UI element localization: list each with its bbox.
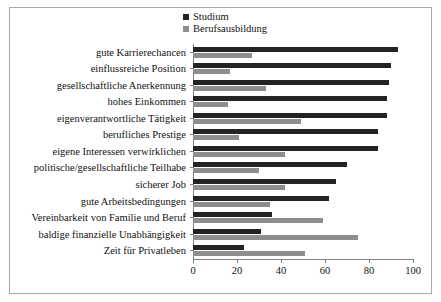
bar-berufsausbildung — [193, 168, 259, 173]
bar-studium — [193, 179, 336, 184]
bar-group — [193, 77, 413, 94]
category-label: baldige finanzielle Unabhängigkeit — [16, 226, 190, 243]
category-label: gesellschaftliche Anerkennung — [16, 77, 190, 94]
y-axis-tick — [190, 184, 193, 185]
bar-studium — [193, 196, 329, 201]
bar-berufsausbildung — [193, 152, 285, 157]
y-axis-tick — [190, 201, 193, 202]
bar-group — [193, 193, 413, 210]
bar-berufsausbildung — [193, 202, 270, 207]
y-axis-tick — [190, 250, 193, 251]
category-axis-labels: gute Karrierechanceneinflussreiche Posit… — [16, 44, 190, 259]
bar-group — [193, 242, 413, 259]
category-label: eigene Interessen verwirklichen — [16, 143, 190, 160]
category-label: sicherer Job — [16, 176, 190, 193]
x-axis-tick-label: 60 — [320, 264, 331, 278]
category-label: Zeit für Privatleben — [16, 242, 190, 259]
y-axis-tick — [190, 217, 193, 218]
category-label: einflussreiche Position — [16, 61, 190, 78]
bar-studium — [193, 129, 378, 134]
x-axis-tick-label: 40 — [276, 264, 287, 278]
category-label: gute Arbeitsbedingungen — [16, 193, 190, 210]
bar-berufsausbildung — [193, 53, 252, 58]
bar-group — [193, 110, 413, 127]
bar-berufsausbildung — [193, 218, 323, 223]
bar-studium — [193, 229, 261, 234]
category-label: politische/gesellschaftliche Teilhabe — [16, 160, 190, 177]
legend-item-berufsausbildung: Berufsausbildung — [183, 23, 267, 34]
legend-label-studium: Studium — [193, 11, 229, 22]
chart-legend: Studium Berufsausbildung — [183, 11, 267, 34]
bar-group — [193, 127, 413, 144]
category-label: Vereinbarkeit von Familie und Beruf — [16, 209, 190, 226]
y-axis-tick — [190, 85, 193, 86]
bar-studium — [193, 162, 347, 167]
plot-area — [193, 44, 413, 259]
legend-item-studium: Studium — [183, 11, 267, 22]
bar-group — [193, 160, 413, 177]
bar-group — [193, 94, 413, 111]
bar-studium — [193, 146, 378, 151]
bar-studium — [193, 47, 398, 52]
bar-berufsausbildung — [193, 119, 301, 124]
bar-studium — [193, 63, 391, 68]
bar-group — [193, 44, 413, 61]
bar-studium — [193, 113, 387, 118]
legend-swatch-studium — [183, 14, 189, 20]
bar-chart-figure: Studium Berufsausbildung gute Karrierech… — [0, 0, 441, 302]
x-axis-tick — [369, 259, 370, 263]
bar-group — [193, 176, 413, 193]
category-label: hohes Einkommen — [16, 94, 190, 111]
bar-berufsausbildung — [193, 102, 228, 107]
y-axis-tick — [190, 167, 193, 168]
bar-berufsausbildung — [193, 135, 239, 140]
x-axis-tick — [237, 259, 238, 263]
x-axis-tick — [325, 259, 326, 263]
x-axis-tick-label: 0 — [190, 264, 195, 278]
bar-studium — [193, 245, 244, 250]
bar-berufsausbildung — [193, 251, 305, 256]
bar-studium — [193, 80, 389, 85]
bar-group — [193, 226, 413, 243]
y-axis-tick — [190, 151, 193, 152]
y-axis-tick — [190, 52, 193, 53]
bar-berufsausbildung — [193, 185, 285, 190]
bar-studium — [193, 212, 272, 217]
x-axis-tick — [281, 259, 282, 263]
category-label: eigenverantwortliche Tätigkeit — [16, 110, 190, 127]
x-axis-tick-label: 100 — [405, 264, 421, 278]
y-axis-tick — [190, 68, 193, 69]
bar-rows — [193, 44, 413, 259]
bar-group — [193, 61, 413, 78]
legend-label-berufsausbildung: Berufsausbildung — [193, 23, 267, 34]
bar-berufsausbildung — [193, 86, 266, 91]
x-axis-tick-label: 80 — [364, 264, 375, 278]
x-axis-tick-labels: 020406080100 — [193, 264, 413, 280]
bar-berufsausbildung — [193, 235, 358, 240]
y-axis-tick — [190, 101, 193, 102]
category-label: berufliches Prestige — [16, 127, 190, 144]
x-axis-tick — [193, 259, 194, 263]
y-axis-tick — [190, 234, 193, 235]
bar-studium — [193, 96, 387, 101]
bar-group — [193, 143, 413, 160]
category-label: gute Karrierechancen — [16, 44, 190, 61]
y-axis-tick — [190, 118, 193, 119]
bar-berufsausbildung — [193, 69, 230, 74]
x-axis-tick-label: 20 — [232, 264, 243, 278]
legend-swatch-berufsausbildung — [183, 26, 189, 32]
bar-group — [193, 209, 413, 226]
y-axis-tick — [190, 134, 193, 135]
x-axis-tick — [413, 259, 414, 263]
